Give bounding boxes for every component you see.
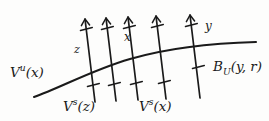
label-stable-manifold-x: Vs(x) <box>139 97 172 113</box>
stable-line-1-stroke <box>85 19 95 102</box>
figure-container: Vu(x) z x y BU(y, r) Vs(z) Vs(x) <box>0 0 269 121</box>
label-point-x: x <box>124 31 131 43</box>
label-point-z: z <box>74 44 80 55</box>
label-ball-base: B <box>213 58 223 74</box>
label-stable-manifold-z-base: V <box>63 98 73 114</box>
stable-line-1 <box>81 19 100 102</box>
label-unstable-manifold-argument: (x) <box>26 64 44 80</box>
stable-line-2-stroke <box>106 18 116 101</box>
stable-line-4-stroke <box>156 16 166 99</box>
stable-manifold-lines <box>81 15 205 102</box>
stable-line-5-tick-lower <box>193 66 205 69</box>
label-ball: BU(y, r) <box>213 60 262 76</box>
label-point-y: y <box>205 20 212 32</box>
label-ball-argument: (y, r) <box>231 58 262 74</box>
label-stable-manifold-z: Vs(z) <box>63 97 95 113</box>
label-stable-manifold-x-base: V <box>139 98 149 114</box>
label-unstable-manifold: Vu(x) <box>10 63 44 79</box>
stable-line-5 <box>186 15 205 98</box>
label-unstable-manifold-base: V <box>10 64 20 80</box>
stable-line-2 <box>102 18 121 101</box>
label-stable-manifold-z-argument: (z) <box>77 98 95 114</box>
stable-line-5-stroke <box>190 15 200 98</box>
label-stable-manifold-x-argument: (x) <box>153 98 171 114</box>
label-ball-subscript: U <box>223 66 231 77</box>
stable-line-4 <box>152 16 171 99</box>
